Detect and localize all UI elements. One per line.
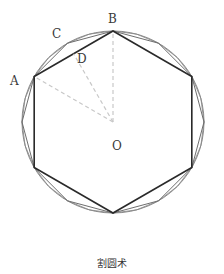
label-C: C	[52, 27, 61, 41]
label-A: A	[9, 74, 19, 88]
circle-division-diagram: B C D A O	[0, 0, 224, 274]
dashed-radii	[34, 31, 113, 122]
label-D: D	[77, 52, 87, 66]
radius-OA	[34, 77, 113, 123]
figure-caption: 割圆术	[0, 255, 224, 270]
label-B: B	[108, 12, 117, 26]
label-O: O	[112, 139, 122, 153]
